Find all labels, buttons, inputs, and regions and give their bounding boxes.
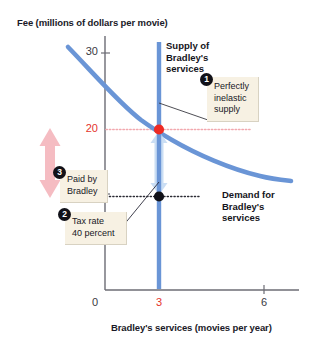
chart-plot-area <box>0 0 309 341</box>
y-tick-label-0: 0 <box>62 296 98 308</box>
callout-tax-rate: Tax rate 40 percent <box>65 212 127 245</box>
paid-by-bradley-arrow <box>40 128 61 198</box>
supply-curve-label: Supply of Bradley's services <box>166 40 209 75</box>
callout-badge-2: 2 <box>58 208 71 221</box>
callout-paid-by-bradley: Paid by Bradley <box>60 170 108 203</box>
y-tick-label-30: 30 <box>62 45 98 57</box>
after-tax-point-marker <box>154 191 164 201</box>
callout-perfectly-inelastic-supply: Perfectly inelastic supply <box>207 77 259 122</box>
x-axis-title: Bradley's services (movies per year) <box>111 322 272 333</box>
y-axis-title: Fee (millions of dollars per movie) <box>17 17 168 28</box>
callout-badge-1: 1 <box>200 73 213 86</box>
equilibrium-point-marker <box>154 124 164 134</box>
y-tick-label-20: 20 <box>62 122 98 134</box>
leader-line-1 <box>159 103 208 120</box>
x-tick-label-3: 3 <box>147 296 171 308</box>
economics-supply-demand-chart: Fee (millions of dollars per movie) Brad… <box>0 0 309 341</box>
x-tick-label-6: 6 <box>252 296 276 308</box>
demand-curve-label: Demand for Bradley's services <box>222 189 275 224</box>
callout-badge-3: 3 <box>53 166 66 179</box>
